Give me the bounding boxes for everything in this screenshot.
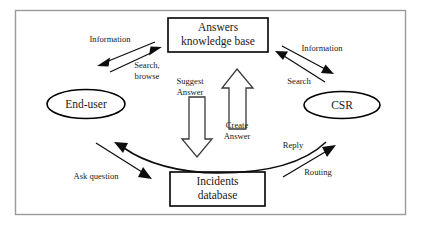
end-user-label: End-user	[65, 98, 107, 110]
reply-arrowhead	[114, 142, 128, 153]
incidents-database-label-line1: Incidents	[196, 175, 239, 187]
edge-label-search-browse-line2: browse	[135, 71, 160, 81]
node-end-user: End-user	[47, 90, 125, 119]
service-flow-diagram: Answers knowledge base End-user CSR Inci…	[0, 0, 421, 226]
edge-label-suggest-line1: Suggest	[176, 76, 204, 86]
edge-suggest-answer	[182, 97, 212, 157]
knowledge-base-label-line2: knowledge base	[181, 35, 255, 48]
ask-question-arrowhead	[138, 167, 152, 179]
edge-label-create-line2: Answer	[224, 131, 251, 141]
diagram-canvas: Answers knowledge base End-user CSR Inci…	[0, 0, 421, 226]
csr-label: CSR	[331, 99, 353, 111]
node-incidents-database: Incidents database	[170, 172, 265, 206]
search-right-arrowhead	[275, 51, 288, 60]
edge-label-search-right: Search	[287, 76, 311, 86]
edge-label-suggest-line2: Answer	[177, 87, 204, 97]
edge-label-search-browse-line1: Search,	[134, 60, 160, 70]
edge-label-routing: Routing	[304, 167, 332, 177]
incidents-database-label-line2: database	[198, 189, 238, 201]
routing-arrowhead	[322, 145, 336, 157]
edge-label-create-line1: Create	[226, 120, 249, 130]
information-left-arrowhead	[97, 58, 110, 67]
search-browse-arrowhead	[149, 47, 162, 56]
edge-label-information-left: Information	[89, 34, 131, 44]
node-csr: CSR	[304, 92, 380, 119]
edge-label-ask-question: Ask question	[73, 171, 119, 181]
information-right-arrowhead	[321, 65, 334, 75]
edge-label-information-right: Information	[301, 43, 343, 53]
node-answers-knowledge-base: Answers knowledge base	[168, 18, 268, 52]
suggest-answer-block-arrow	[182, 97, 212, 157]
knowledge-base-label-line1: Answers	[198, 21, 239, 33]
edge-label-reply: Reply	[283, 140, 304, 150]
